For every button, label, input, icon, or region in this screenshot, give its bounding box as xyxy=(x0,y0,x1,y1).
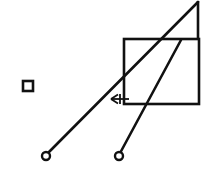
small-square-marker xyxy=(23,81,33,91)
long-diagonal-link xyxy=(46,2,198,155)
rectangle-frame xyxy=(124,39,199,104)
pivot-joint-right xyxy=(115,152,123,160)
figure-canvas xyxy=(0,0,212,178)
pivot-joint-left xyxy=(42,152,50,160)
line-drawing-svg xyxy=(0,0,212,178)
short-diagonal-link xyxy=(119,40,181,155)
